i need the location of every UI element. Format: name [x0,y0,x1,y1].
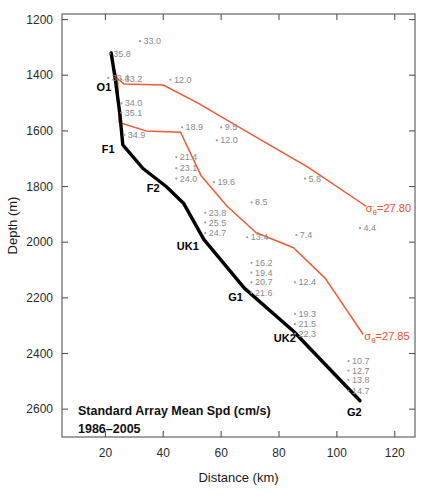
y-tick-label: 2400 [26,347,53,361]
speed-point-marker [169,79,171,81]
speed-point-marker [123,134,125,136]
speed-point-marker [220,126,222,128]
speed-value-label: 13.4 [251,232,269,242]
sigma-theta-label-27.80: σθ=27.80 [366,202,411,217]
speed-point-marker [304,177,306,179]
y-tick-label: 2200 [26,291,53,305]
speed-value-label: 35.8 [113,49,131,59]
speed-value-label: 18.9 [186,122,204,132]
speed-value-label: 35.1 [125,108,143,118]
speed-point-marker [294,323,296,325]
speed-value-label: 34.9 [128,130,146,140]
y-tick-label: 1400 [26,68,53,82]
speed-point-marker [204,232,206,234]
speed-point-marker [347,360,349,362]
speed-point-marker [139,40,141,42]
speed-point-marker [347,390,349,392]
speed-point-marker [250,281,252,283]
y-tick-label: 1200 [26,13,53,27]
speed-value-label: 24.7 [209,228,227,238]
site-label-G2: G2 [347,406,362,418]
speed-point-marker [295,234,297,236]
speed-point-marker [175,156,177,158]
speed-point-marker [250,292,252,294]
speed-value-label: 25.5 [209,218,227,228]
x-tick-label: 20 [99,446,113,460]
speed-value-label: 12.0 [174,75,192,85]
speed-value-label: 24.0 [180,174,198,184]
caption-line-2: 1986–2005 [78,422,141,436]
speed-point-marker [109,52,111,54]
speed-value-label: 20.7 [255,277,273,287]
speed-value-label: 21.5 [298,319,316,329]
sigma-theta-label-27.85: σθ=27.85 [364,330,409,345]
x-tick-label: 80 [272,446,286,460]
y-tick-label: 2600 [26,402,53,416]
x-tick-label: 120 [385,446,405,460]
x-tick-label: 60 [214,446,228,460]
y-tick-label: 1800 [26,180,53,194]
speed-value-label: 23.8 [209,208,227,218]
y-axis-title: Depth (m) [5,197,20,255]
speed-value-label: 4.4 [364,223,377,233]
speed-point-marker [120,111,122,113]
speed-point-marker [175,177,177,179]
mooring-array-line [111,53,360,401]
speed-point-marker [120,102,122,104]
x-tick-label: 100 [327,446,347,460]
speed-point-marker [204,212,206,214]
speed-point-marker [216,139,218,141]
speed-value-label: 19.4 [255,268,273,278]
speed-value-label: 13.8 [352,375,370,385]
speed-value-label: 14.7 [352,386,370,396]
x-axis-title: Distance (km) [198,470,278,485]
speed-value-label: 16.2 [255,258,273,268]
site-label-F2: F2 [147,182,160,194]
speed-point-marker [204,221,206,223]
sigma-value: =27.80 [377,202,411,214]
speed-value-label: 7.4 [300,230,313,240]
speed-point-marker [347,369,349,371]
speed-value-label: 21.4 [180,152,198,162]
speed-point-marker [246,236,248,238]
speed-point-marker [120,78,122,80]
site-label-UK2: UK2 [274,332,296,344]
speed-value-label: 12.4 [298,277,316,287]
speed-value-label: 9.5 [225,122,238,132]
speed-value-label: 19.3 [298,309,316,319]
site-label-F1: F1 [102,143,115,155]
y-tick-label: 2000 [26,235,53,249]
speed-point-marker [250,271,252,273]
depth-distance-plot: 1200140016001800200022002400260020406080… [0,0,428,502]
speed-value-label: 33.2 [125,74,143,84]
speed-point-marker [250,262,252,264]
caption-line-1: Standard Array Mean Spd (cm/s) [78,404,271,418]
speed-point-marker [175,167,177,169]
speed-point-marker [250,201,252,203]
speed-value-label: 33.0 [144,36,162,46]
site-label-G1: G1 [228,291,243,303]
speed-value-label: 22.3 [298,329,316,339]
speed-point-marker [359,227,361,229]
speed-point-marker [347,379,349,381]
site-label-UK1: UK1 [177,240,199,252]
sigma-value: =27.85 [376,330,410,342]
speed-value-label: 5.8 [309,174,322,184]
x-tick-label: 40 [157,446,171,460]
speed-point-marker [181,126,183,128]
speed-point-marker [107,77,109,79]
speed-value-label: 12.0 [220,135,238,145]
speed-value-label: 23.1 [180,163,198,173]
speed-point-marker [294,313,296,315]
speed-value-label: 8.5 [255,197,268,207]
chart-figure: 1200140016001800200022002400260020406080… [0,0,428,502]
site-label-O1: O1 [97,81,112,93]
speed-value-label: 19.6 [217,177,235,187]
speed-point-marker [213,181,215,183]
speed-point-marker [294,281,296,283]
y-tick-label: 1600 [26,124,53,138]
speed-value-label: 21.6 [255,288,273,298]
